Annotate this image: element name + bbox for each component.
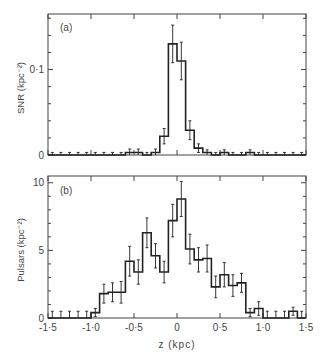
x-tick-label: 0 xyxy=(174,322,180,333)
panel-a-label: (a) xyxy=(60,22,72,33)
x-tick-label: 0·5 xyxy=(213,322,228,333)
y-tick-label: 0 xyxy=(38,150,44,161)
x-tick-label: -1·5 xyxy=(39,322,57,333)
x-tick-label: -1·0 xyxy=(82,322,100,333)
x-tick-label: 1·5 xyxy=(299,322,314,333)
panel-a-y-axis-label: SNR (kpc⁻²) xyxy=(15,62,26,114)
x-tick-label: -0·5 xyxy=(125,322,143,333)
figure: 00·1 0510-1·5-1·0-0·500·51·01·5 (a) (b) … xyxy=(0,0,323,353)
panel-a-snr-histogram: 00·1 xyxy=(30,14,306,161)
histogram-steps xyxy=(48,199,306,318)
x-axis-label: z (kpc) xyxy=(159,339,196,350)
y-tick-label: 0·1 xyxy=(30,64,45,75)
panel-b-y-axis-label: Pulsars (kpc⁻²) xyxy=(15,218,26,282)
panel-b-pulsar-histogram: 0510-1·5-1·0-0·500·51·01·5 xyxy=(33,176,314,333)
y-tick-label: 10 xyxy=(33,177,45,188)
x-tick-label: 1·0 xyxy=(256,322,271,333)
y-tick-label: 5 xyxy=(38,245,44,256)
histogram-steps xyxy=(48,44,306,155)
panel-b-label: (b) xyxy=(60,185,72,196)
plot-frame xyxy=(48,176,306,318)
plot-frame xyxy=(48,14,306,155)
